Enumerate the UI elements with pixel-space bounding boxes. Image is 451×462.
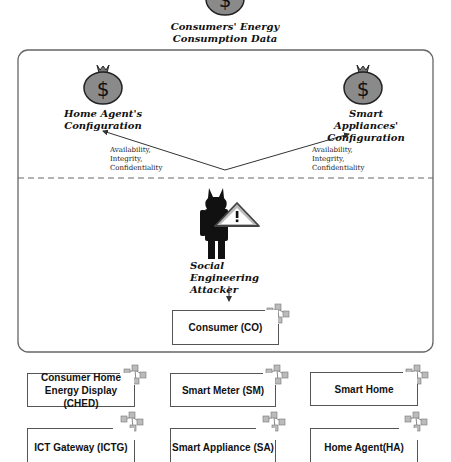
left-security-properties: Availability, Integrity, Confidentiality xyxy=(110,146,162,173)
component-smart-appliance: Smart Appliance (SA) xyxy=(170,428,275,462)
left-asset-label: Home Agent's Configuration xyxy=(58,108,148,132)
right-security-properties: Availability, Integrity, Confidentiality xyxy=(312,146,364,173)
left-money-bag-icon xyxy=(84,65,122,104)
top-asset-label: Consumers' Energy Consumption Data xyxy=(160,21,290,45)
attacker-label: Social Engineering Attacker xyxy=(190,260,270,296)
top-money-bag-icon xyxy=(206,0,244,15)
component-home-agent: Home Agent(HA) xyxy=(310,428,417,462)
right-asset-label: Smart Appliances' Configuration xyxy=(316,108,416,144)
component-smart-home: Smart Home xyxy=(310,372,417,406)
component-ched: Consumer Home Energy Display (CHED) xyxy=(27,373,134,407)
component-ict-gateway: ICT Gateway (ICTG) xyxy=(27,428,134,462)
consumer-box: Consumer (CO) xyxy=(172,310,278,345)
component-smart-meter: Smart Meter (SM) xyxy=(170,373,275,407)
right-money-bag-icon xyxy=(344,65,382,104)
